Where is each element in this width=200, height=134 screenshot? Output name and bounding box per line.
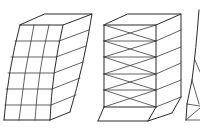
figure-truss-tower: [186, 10, 200, 120]
braced-frame-side-floor: [156, 97, 181, 107]
braced-frame-side-floor: [156, 63, 181, 74]
truss-tower-edge: [186, 104, 187, 120]
shear-frame-base-side: [50, 112, 70, 120]
figure-braced-frame: [98, 14, 181, 121]
shear-frame-left-edge: [4, 25, 20, 120]
braced-frame-ground-back: [172, 97, 181, 113]
braced-frame-side-floor: [156, 30, 181, 41]
shear-frame-side-floor: [59, 30, 89, 41]
shear-frame-side-floor: [56, 46, 86, 57]
braced-frame-side-floor: [156, 47, 181, 57]
truss-tower-member: [192, 80, 199, 104]
shear-frame-side-floor: [54, 62, 83, 73]
shear-frame-side-floor: [52, 78, 80, 89]
shear-frame-column: [35, 25, 49, 120]
truss-tower-member: [186, 108, 200, 120]
shear-frame-roof: [20, 14, 92, 25]
braced-frame-ground-left: [98, 107, 104, 121]
shear-frame-column: [19, 25, 34, 120]
figure-shear-frame: [4, 14, 92, 120]
shear-frame-front-right-edge: [50, 25, 63, 120]
braced-frame-side-floor: [156, 80, 181, 90]
truss-tower-edge: [192, 10, 199, 80]
truss-tower-member: [195, 60, 200, 72]
truss-tower-edge: [187, 80, 192, 104]
braced-frame-roof: [104, 14, 181, 25]
diagram-svg: [0, 0, 200, 134]
diagram-canvas: Line drawings of building deformation mo…: [0, 0, 200, 134]
truss-tower-member: [187, 104, 200, 106]
